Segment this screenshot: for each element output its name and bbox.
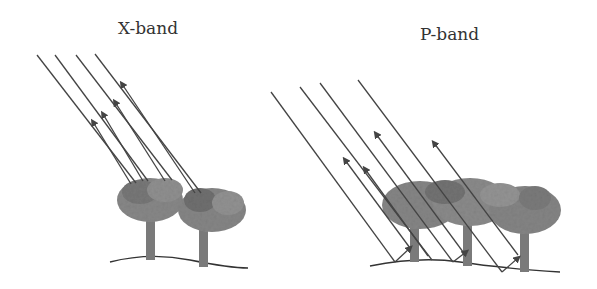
incident-rays [37, 54, 201, 193]
x-band-panel [37, 54, 248, 268]
tree-canopy [117, 178, 246, 232]
ground-line [110, 256, 248, 268]
tree-canopy [382, 178, 561, 234]
diagram-canvas [0, 0, 597, 289]
tree-trunk [463, 222, 472, 266]
p-band-panel [271, 80, 561, 272]
